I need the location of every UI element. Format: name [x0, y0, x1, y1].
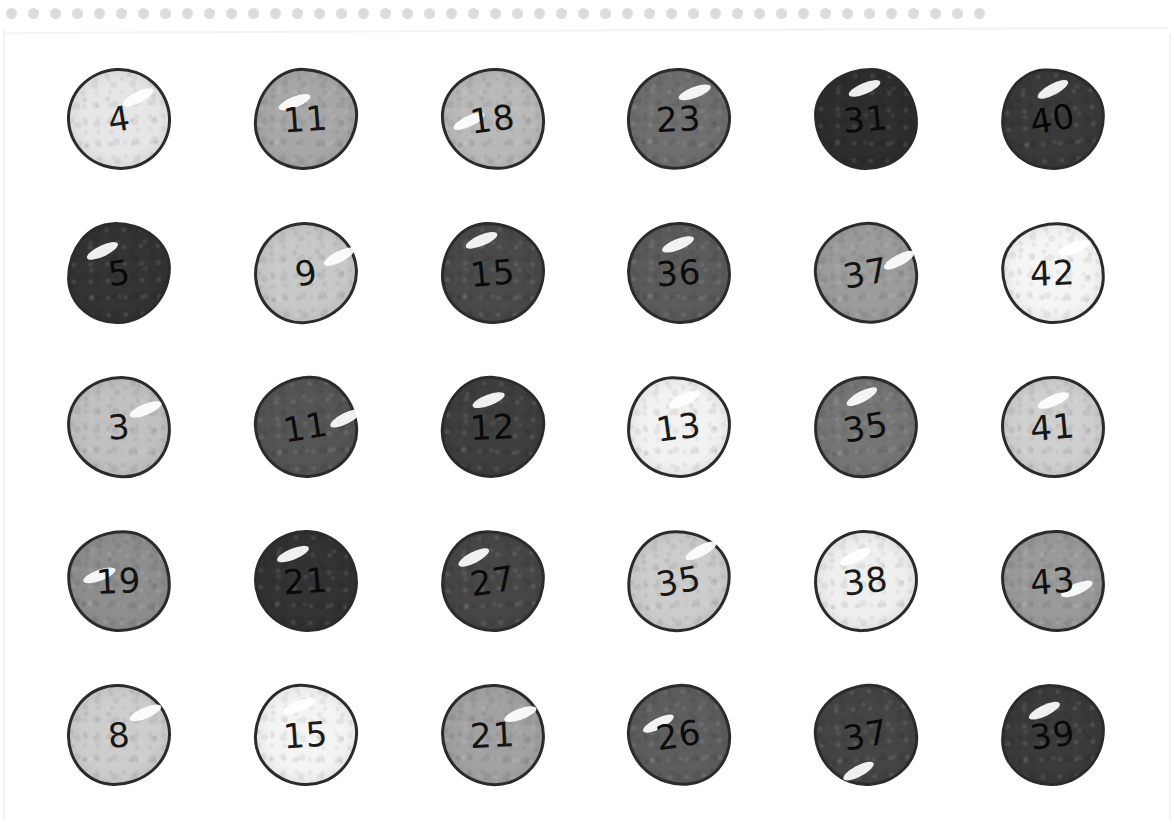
- border-dot: [28, 8, 39, 19]
- grid-cell: 37: [773, 196, 960, 350]
- border-dot: [556, 8, 567, 19]
- highlight-glare: [128, 398, 164, 421]
- border-dot: [578, 8, 589, 19]
- counter-token[interactable]: 21: [438, 681, 548, 789]
- counter-token[interactable]: 21: [252, 528, 359, 634]
- counter-token[interactable]: 38: [813, 529, 920, 634]
- grid-cell: 9: [213, 196, 400, 350]
- border-dot: [468, 8, 479, 19]
- page-edge-right: [1169, 34, 1171, 820]
- grid-cell: 31: [773, 42, 960, 196]
- grid-cell: 38: [773, 504, 960, 658]
- border-dot: [820, 8, 831, 19]
- grid-cell: 11: [213, 350, 400, 504]
- counter-token[interactable]: 26: [625, 681, 734, 788]
- border-dot: [204, 8, 215, 19]
- border-dot: [974, 8, 985, 19]
- dotted-top-border: [0, 0, 1174, 26]
- border-dot: [644, 8, 655, 19]
- counter-token[interactable]: 4: [65, 65, 174, 172]
- grid-cell: 36: [586, 196, 773, 350]
- border-dot: [688, 8, 699, 19]
- border-dot: [776, 8, 787, 19]
- border-dot: [336, 8, 347, 19]
- border-dot: [512, 8, 523, 19]
- grid-cell: 21: [399, 658, 586, 812]
- counter-token[interactable]: 42: [998, 219, 1108, 327]
- border-dot: [842, 8, 853, 19]
- counter-token[interactable]: 15: [440, 221, 546, 325]
- counter-value: 5: [106, 255, 133, 292]
- border-dot: [600, 8, 611, 19]
- counter-value: 31: [842, 100, 890, 138]
- border-dot: [864, 8, 875, 19]
- counter-value: 13: [655, 407, 704, 447]
- counter-value: 3: [107, 409, 132, 444]
- counter-token[interactable]: 23: [624, 65, 734, 173]
- counter-value: 4: [105, 100, 133, 137]
- counter-token[interactable]: 31: [813, 67, 919, 171]
- border-dot: [182, 8, 193, 19]
- border-dot: [446, 8, 457, 19]
- counter-token[interactable]: 15: [252, 682, 359, 788]
- counter-token[interactable]: 27: [438, 527, 547, 634]
- counter-token[interactable]: 3: [66, 374, 173, 480]
- counter-token[interactable]: 19: [64, 527, 174, 635]
- counter-value: 8: [107, 717, 133, 753]
- grid-cell: 43: [959, 504, 1146, 658]
- border-dot: [952, 8, 963, 19]
- counter-token[interactable]: 35: [811, 372, 922, 481]
- counter-value: 38: [841, 561, 890, 601]
- counter-token[interactable]: 13: [626, 375, 733, 480]
- counter-value: 37: [841, 714, 891, 755]
- counter-token[interactable]: 11: [251, 373, 360, 480]
- counter-value: 11: [282, 100, 330, 137]
- highlight-glare: [463, 229, 499, 252]
- counter-token[interactable]: 37: [811, 680, 922, 789]
- border-dot: [50, 8, 61, 19]
- border-dot: [886, 8, 897, 19]
- border-dot: [732, 8, 743, 19]
- border-dot: [490, 8, 501, 19]
- highlight-glare: [841, 758, 876, 784]
- counter-token[interactable]: 8: [66, 683, 172, 787]
- counter-value: 19: [96, 563, 143, 599]
- counter-token[interactable]: 35: [624, 526, 735, 635]
- border-dot: [798, 8, 809, 19]
- counter-token[interactable]: 5: [66, 221, 173, 326]
- highlight-glare: [328, 406, 363, 431]
- counter-value: 37: [841, 252, 891, 293]
- grid-cell: 18: [399, 42, 586, 196]
- grid-cell: 40: [959, 42, 1146, 196]
- counter-token[interactable]: 39: [999, 683, 1106, 788]
- counter-token[interactable]: 18: [439, 67, 546, 172]
- counter-value: 39: [1028, 715, 1077, 755]
- counter-value: 9: [292, 254, 320, 291]
- grid-cell: 5: [26, 196, 213, 350]
- counter-token[interactable]: 43: [1000, 529, 1106, 633]
- border-dot: [754, 8, 765, 19]
- counter-value: 41: [1029, 408, 1077, 446]
- grid-cell: 27: [399, 504, 586, 658]
- counter-value: 27: [468, 561, 518, 602]
- counter-token[interactable]: 36: [626, 220, 733, 326]
- border-dot: [424, 8, 435, 19]
- counter-token[interactable]: 11: [252, 66, 359, 172]
- grid-cell: 42: [959, 196, 1146, 350]
- grid-cell: 37: [773, 658, 960, 812]
- counter-token[interactable]: 12: [438, 373, 548, 481]
- border-dot: [930, 8, 941, 19]
- counter-token[interactable]: 41: [1000, 375, 1106, 479]
- border-dot: [534, 8, 545, 19]
- counter-token[interactable]: 9: [251, 219, 360, 326]
- counter-token[interactable]: 37: [811, 218, 922, 327]
- border-dot: [402, 8, 413, 19]
- grid-cell: 12: [399, 350, 586, 504]
- border-dot: [292, 8, 303, 19]
- grid-cell: 39: [959, 658, 1146, 812]
- border-dot: [666, 8, 677, 19]
- counter-value: 15: [469, 254, 517, 292]
- counter-token[interactable]: 40: [997, 64, 1108, 173]
- counter-value: 40: [1027, 98, 1077, 139]
- border-dot: [314, 8, 325, 19]
